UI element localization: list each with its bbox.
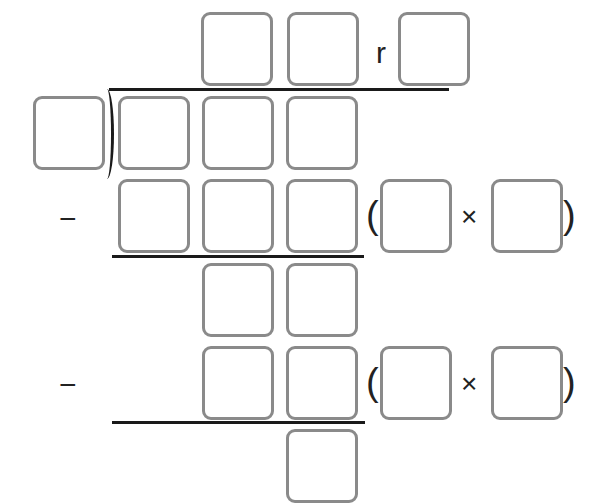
open-paren-1: ( [366, 196, 379, 234]
quotient-digit-1-box[interactable] [201, 12, 273, 86]
dividend-digit-3-box[interactable] [286, 96, 358, 170]
dividend-digit-2-box[interactable] [202, 96, 274, 170]
minus-sign-2: − [59, 370, 77, 400]
minus-sign-1: − [59, 204, 77, 234]
subtract-1-digit-1-box[interactable] [118, 179, 190, 253]
subtract-2-digit-1-box[interactable] [202, 346, 274, 420]
factor-2b-box[interactable] [491, 346, 563, 420]
quotient-digit-2-box[interactable] [287, 12, 359, 86]
remainder-label: r [376, 38, 386, 68]
times-sign-2: × [461, 370, 477, 398]
close-paren-1: ) [563, 196, 576, 234]
subtraction-line-1 [112, 255, 364, 258]
subtract-1-digit-3-box[interactable] [286, 179, 358, 253]
subtract-2-digit-2-box[interactable] [286, 346, 358, 420]
dividend-digit-1-box[interactable] [118, 96, 190, 170]
factor-1a-box[interactable] [380, 179, 452, 253]
difference-1-digit-1-box[interactable] [202, 263, 274, 337]
difference-2-digit-1-box[interactable] [286, 429, 358, 503]
factor-1b-box[interactable] [491, 179, 563, 253]
times-sign-1: × [461, 203, 477, 231]
subtract-1-digit-2-box[interactable] [202, 179, 274, 253]
divisor-box[interactable] [33, 96, 105, 170]
subtraction-line-2 [112, 421, 365, 424]
close-paren-2: ) [563, 363, 576, 401]
open-paren-2: ( [366, 363, 379, 401]
division-bar [109, 88, 449, 91]
remainder-box[interactable] [398, 12, 470, 86]
factor-2a-box[interactable] [380, 346, 452, 420]
difference-1-digit-2-box[interactable] [286, 263, 358, 337]
